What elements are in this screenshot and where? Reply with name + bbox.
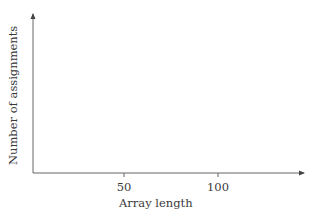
chart-canvas — [0, 0, 319, 220]
x-axis-label: Array length — [119, 196, 193, 210]
x-tick-label-50: 50 — [117, 180, 132, 194]
y-axis-label: Number of assignments — [6, 26, 20, 165]
x-tick-label-100: 100 — [207, 180, 229, 194]
